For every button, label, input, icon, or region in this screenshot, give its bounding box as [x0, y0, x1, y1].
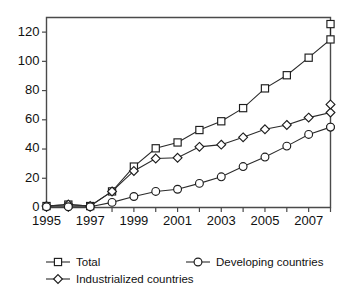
- data-point-circle: [239, 163, 247, 171]
- legend-label: Industrialized countries: [76, 273, 194, 285]
- data-point-square: [174, 139, 181, 146]
- x-tick-label: 2001: [163, 213, 192, 228]
- data-point-circle: [43, 203, 51, 211]
- x-tick-label: 2005: [251, 213, 280, 228]
- data-point-circle: [217, 173, 225, 181]
- legend-square-icon: [54, 258, 61, 265]
- data-point-square: [283, 72, 290, 79]
- y-tick-label: 0: [32, 199, 39, 214]
- data-point-circle: [196, 179, 204, 187]
- data-point-circle: [152, 188, 160, 196]
- data-point-circle: [108, 198, 116, 206]
- y-tick-label: 100: [18, 53, 40, 68]
- data-point-circle: [305, 131, 313, 139]
- data-point-circle: [261, 153, 269, 161]
- legend-label: Total: [76, 256, 100, 268]
- y-tick-label: 60: [25, 111, 39, 126]
- data-point-square: [305, 54, 312, 61]
- x-tick-label: 1995: [32, 213, 61, 228]
- data-point-square: [240, 105, 247, 112]
- legend-circle-icon: [194, 258, 202, 266]
- data-point-circle: [327, 123, 335, 131]
- chart-svg: 020406080100120 199519971999200120032005…: [0, 0, 346, 297]
- y-tick-label: 120: [18, 24, 40, 39]
- x-tick-label: 1999: [119, 213, 148, 228]
- y-tick-label: 80: [25, 82, 39, 97]
- legend-label: Developing countries: [216, 256, 324, 268]
- data-point-square: [327, 20, 334, 27]
- data-point-square: [261, 85, 268, 92]
- data-point-circle: [283, 142, 291, 150]
- data-point-circle: [174, 185, 182, 193]
- data-point-circle: [130, 193, 138, 201]
- data-point-square: [327, 36, 334, 43]
- chart-background: [0, 0, 346, 297]
- data-point-circle: [86, 203, 94, 211]
- line-chart-figure: 020406080100120 199519971999200120032005…: [0, 0, 346, 297]
- y-tick-label: 20: [25, 170, 39, 185]
- data-point-square: [152, 145, 159, 152]
- data-point-square: [218, 118, 225, 125]
- data-point-square: [196, 126, 203, 133]
- x-tick-label: 2007: [294, 213, 323, 228]
- y-tick-label: 40: [25, 140, 39, 155]
- x-tick-label: 2003: [207, 213, 236, 228]
- data-point-circle: [64, 203, 72, 211]
- x-tick-label: 1997: [76, 213, 105, 228]
